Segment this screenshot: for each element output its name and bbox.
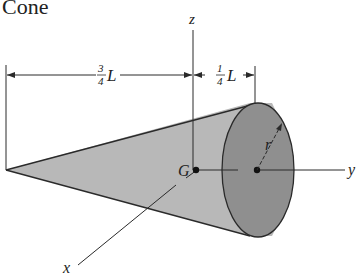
dim-left-numerator: 3	[97, 62, 104, 74]
dim-right-denominator: 4	[217, 75, 223, 87]
radius-label: r	[265, 136, 272, 153]
arrowhead-mid-left	[184, 72, 192, 78]
dim-left-denominator: 4	[98, 75, 104, 87]
dim-right-variable: L	[226, 66, 236, 85]
dim-right-numerator: 1	[217, 62, 223, 74]
arrowhead-left	[7, 72, 15, 78]
y-axis-label: y	[346, 161, 356, 179]
arrowhead-right	[246, 72, 254, 78]
dim-left-variable: L	[106, 66, 116, 85]
x-axis-label: x	[62, 259, 70, 276]
arrowhead-mid-right	[194, 72, 202, 78]
centroid-label: G	[178, 162, 190, 179]
cone-diagram: 3 4 L 1 4 L y x z G r	[0, 0, 357, 278]
z-axis-label: z	[188, 11, 195, 27]
centroid-point	[193, 167, 199, 173]
